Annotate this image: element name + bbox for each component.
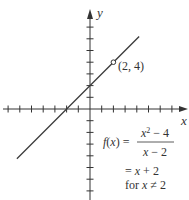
formula-simplified: = x + 2	[125, 164, 159, 178]
function-graph: x y (2, 4) f(x) = x2 − 4 x − 2 = x + 2 f…	[0, 0, 189, 200]
x-axis-arrow-icon	[179, 106, 188, 112]
y-axis-label: y	[95, 5, 103, 20]
open-circle-point	[111, 60, 116, 65]
formula-lhs: f(x) =	[103, 135, 130, 149]
formula-numerator: x2 − 4	[140, 126, 169, 140]
formula: f(x) = x2 − 4 x − 2 = x + 2 for x ≠ 2	[103, 126, 174, 192]
x-axis: x	[3, 106, 188, 129]
point-label: (2, 4)	[118, 59, 144, 73]
y-axis: y	[87, 5, 104, 200]
formula-condition: for x ≠ 2	[125, 178, 166, 192]
y-axis-arrow-icon	[87, 9, 93, 19]
x-axis-label: x	[180, 113, 187, 128]
formula-denominator: x − 2	[142, 145, 167, 159]
